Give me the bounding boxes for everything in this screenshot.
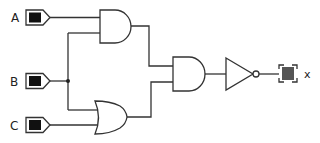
input-label-c: C xyxy=(10,119,18,133)
input-label-b: B xyxy=(10,75,18,89)
junction-dot xyxy=(66,79,70,83)
logic-circuit-diagram: A B C xyxy=(0,0,320,143)
or-gate[interactable] xyxy=(95,101,127,134)
and-gate-1[interactable] xyxy=(100,10,131,43)
input-pin-b[interactable] xyxy=(26,74,50,89)
output-label-x: x xyxy=(304,68,311,81)
not-gate[interactable] xyxy=(226,58,259,90)
input-label-a: A xyxy=(11,11,20,25)
output-pin-x[interactable] xyxy=(279,65,297,82)
input-pin-c[interactable] xyxy=(26,118,50,133)
input-pin-a[interactable] xyxy=(26,10,50,25)
and-gate-2[interactable] xyxy=(173,57,205,91)
